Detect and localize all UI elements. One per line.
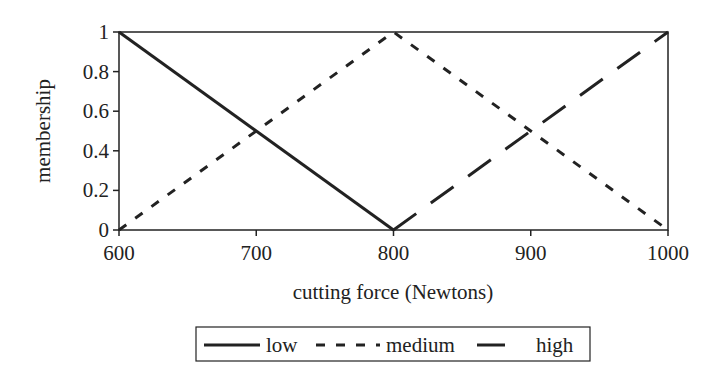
plot-frame [119,32,668,230]
series-medium [119,32,668,230]
legend-low-label: low [266,333,298,357]
x-axis-ticks: 6007008009001000 [103,230,689,265]
y-axis-ticks: 00.20.40.60.81 [83,20,119,242]
y-axis-label: membership [31,79,55,183]
y-tick-label: 0 [99,218,110,242]
legend: low medium high [196,327,590,361]
legend-medium-label: medium [386,333,455,357]
x-axis-label: cutting force (Newtons) [293,280,494,304]
chart: 00.20.40.60.81 6007008009001000 cutting … [0,0,726,383]
y-tick-label: 0.6 [83,99,109,123]
x-tick-label: 700 [241,241,273,265]
x-tick-label: 800 [378,241,410,265]
y-tick-label: 0.4 [83,139,110,163]
legend-high-label: high [536,333,574,357]
series-lines [119,32,668,230]
x-tick-label: 600 [103,241,135,265]
x-tick-label: 1000 [647,241,689,265]
y-tick-label: 0.8 [83,60,109,84]
y-tick-label: 1 [99,20,110,44]
y-tick-label: 0.2 [83,178,109,202]
plot-area: 00.20.40.60.81 6007008009001000 [83,20,689,265]
x-tick-label: 900 [515,241,547,265]
